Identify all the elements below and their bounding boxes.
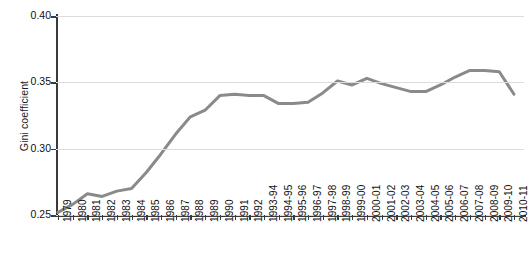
x-tick-label: 2000-01	[371, 185, 382, 222]
x-tick-mark	[87, 215, 88, 220]
gridline	[56, 16, 524, 17]
x-tick-mark	[499, 215, 500, 220]
y-tick-label: 0.30	[9, 142, 51, 154]
x-tick-label: 1985	[150, 199, 161, 222]
x-tick-label: 1981	[91, 199, 102, 222]
x-tick-label: 1996-97	[312, 185, 323, 222]
x-tick-mark	[455, 215, 456, 220]
x-tick-mark	[190, 215, 191, 220]
x-tick-label: 2006-07	[459, 185, 470, 222]
x-tick-mark	[205, 215, 206, 220]
x-tick-mark	[73, 215, 74, 220]
x-tick-label: 1983	[121, 199, 132, 222]
x-tick-label: 1980	[77, 199, 88, 222]
x-tick-label: 1998-99	[341, 185, 352, 222]
x-tick-label: 1989	[209, 199, 220, 222]
x-tick-label: 1999-00	[356, 185, 367, 222]
x-tick-label: 2001-02	[386, 185, 397, 222]
x-tick-mark	[367, 215, 368, 220]
y-tick-label: 0.25	[9, 208, 51, 220]
x-tick-label: 2002-03	[400, 185, 411, 222]
x-tick-mark	[352, 215, 353, 220]
y-axis-title: Gini coefficient	[18, 46, 30, 186]
x-tick-label: 1991	[239, 199, 250, 222]
x-tick-mark	[176, 215, 177, 220]
x-tick-label: 1982	[106, 199, 117, 222]
y-tick-mark	[51, 82, 56, 84]
gridline	[56, 149, 524, 150]
x-tick-mark	[470, 215, 471, 220]
gini-coefficient-line-chart: Gini coefficient 0.250.300.350.40 197919…	[0, 0, 532, 278]
x-tick-label: 1986	[165, 199, 176, 222]
x-tick-mark	[264, 215, 265, 220]
x-tick-mark	[337, 215, 338, 220]
gridline	[56, 82, 524, 83]
x-tick-label: 2004-05	[430, 185, 441, 222]
x-tick-label: 1997-98	[327, 185, 338, 222]
x-tick-label: 1987	[180, 199, 191, 222]
x-tick-label: 1995-96	[297, 185, 308, 222]
x-tick-mark	[293, 215, 294, 220]
x-tick-mark	[440, 215, 441, 220]
x-tick-mark	[514, 215, 515, 220]
x-tick-label: 2008-09	[489, 185, 500, 222]
x-tick-label: 1990	[224, 199, 235, 222]
x-tick-mark	[279, 215, 280, 220]
x-tick-mark	[102, 215, 103, 220]
x-tick-mark	[117, 215, 118, 220]
x-tick-mark	[132, 215, 133, 220]
x-tick-label: 1994-95	[283, 185, 294, 222]
y-tick-mark	[51, 215, 56, 217]
x-tick-label: 2003-04	[415, 185, 426, 222]
x-tick-label: 2005-06	[444, 185, 455, 222]
x-tick-mark	[308, 215, 309, 220]
x-tick-label: 2009-10	[503, 185, 514, 222]
x-tick-label: 2007-08	[474, 185, 485, 222]
x-tick-label: 1979	[62, 199, 73, 222]
y-tick-label: 0.35	[9, 75, 51, 87]
x-tick-label: 1984	[136, 199, 147, 222]
x-tick-mark	[382, 215, 383, 220]
x-tick-mark	[235, 215, 236, 220]
x-tick-mark	[411, 215, 412, 220]
x-tick-mark	[426, 215, 427, 220]
x-tick-label: 2010-11	[518, 185, 529, 222]
x-tick-mark	[146, 215, 147, 220]
x-tick-mark	[220, 215, 221, 220]
x-tick-label: 1992	[253, 199, 264, 222]
x-tick-mark	[396, 215, 397, 220]
y-tick-mark	[51, 16, 56, 18]
x-tick-mark	[58, 215, 59, 220]
y-tick-label: 0.40	[9, 9, 51, 21]
x-tick-mark	[161, 215, 162, 220]
x-tick-label: 1993-94	[268, 185, 279, 222]
x-tick-mark	[485, 215, 486, 220]
y-tick-mark	[51, 149, 56, 151]
x-tick-mark	[323, 215, 324, 220]
x-tick-label: 1988	[194, 199, 205, 222]
x-tick-mark	[249, 215, 250, 220]
